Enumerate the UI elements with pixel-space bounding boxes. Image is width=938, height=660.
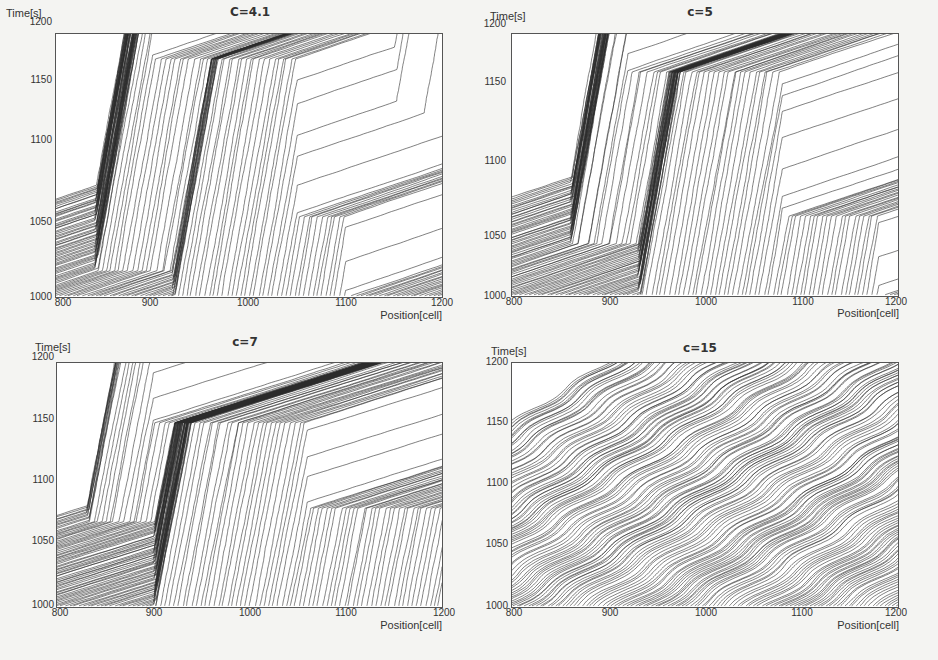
trajectory-plot (512, 363, 898, 607)
y-tick: 1150 (468, 416, 508, 427)
vehicle-trajectories (56, 34, 442, 296)
trajectory-plot (57, 363, 442, 607)
y-tick: 1150 (12, 74, 52, 85)
x-tick: 1200 (424, 607, 464, 618)
vehicle-trajectories (57, 363, 442, 606)
panel-title: c=15 (670, 341, 730, 355)
x-tick: 1200 (876, 296, 916, 307)
vehicle-trajectories (512, 363, 898, 606)
x-tick: 1100 (326, 297, 366, 308)
y-tick: 1100 (468, 477, 508, 488)
x-tick: 900 (134, 607, 174, 618)
y-tick: 1200 (466, 18, 506, 29)
x-tick: 1000 (230, 607, 270, 618)
x-axis-label: Position[cell] (779, 619, 899, 631)
x-tick: 900 (130, 297, 170, 308)
y-tick: 1050 (466, 230, 506, 241)
panel-title: c=7 (215, 335, 275, 349)
panel-title: c=5 (670, 5, 730, 19)
x-axis-label: Position[cell] (779, 307, 899, 319)
y-tick: 1200 (14, 351, 54, 362)
x-tick: 800 (43, 297, 83, 308)
x-tick: 1000 (228, 297, 268, 308)
x-tick: 900 (590, 296, 630, 307)
x-tick: 800 (494, 296, 534, 307)
x-axis-label: Position[cell] (322, 309, 442, 321)
y-tick: 1150 (466, 76, 506, 87)
x-tick: 800 (40, 607, 80, 618)
x-axis-label: Position[cell] (322, 619, 442, 631)
y-tick: 1100 (12, 134, 52, 145)
panel-title: C=4.1 (200, 5, 300, 19)
x-tick: 800 (494, 607, 534, 618)
x-tick: 1100 (783, 296, 823, 307)
x-tick: 1000 (686, 296, 726, 307)
y-tick: 1100 (14, 474, 54, 485)
trajectory-plot (512, 34, 898, 296)
y-tick: 1050 (468, 538, 508, 549)
x-tick: 1200 (876, 607, 916, 618)
x-tick: 1000 (686, 607, 726, 618)
plot-area (511, 362, 899, 608)
y-tick: 1200 (12, 16, 52, 27)
y-tick: 1100 (466, 155, 506, 166)
plot-area (55, 33, 443, 298)
x-tick: 1100 (326, 607, 366, 618)
trajectory-plot (56, 34, 442, 297)
y-tick: 1050 (14, 535, 54, 546)
vehicle-trajectories (512, 34, 898, 295)
plot-area (56, 362, 443, 608)
x-tick: 1100 (782, 607, 822, 618)
x-tick: 1200 (422, 297, 462, 308)
y-tick: 1200 (468, 356, 508, 367)
y-tick: 1150 (14, 413, 54, 424)
y-tick: 1050 (12, 216, 52, 227)
plot-area (511, 33, 899, 297)
x-tick: 900 (590, 607, 630, 618)
